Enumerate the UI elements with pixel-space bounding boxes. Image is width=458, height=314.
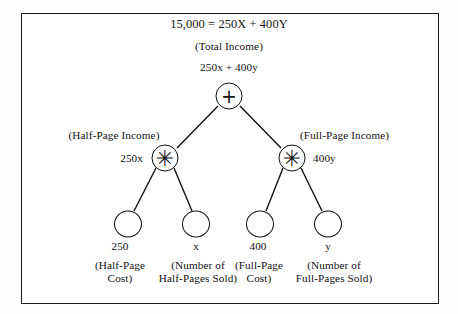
leaf-caption-half-page-cost: (Half-Page Cost) bbox=[95, 259, 145, 285]
multiply-operator-node-left[interactable]: ✳ bbox=[152, 145, 179, 172]
caption-line: Half-Pages Sold) bbox=[159, 272, 237, 285]
leaf-value-full-pages-sold: y bbox=[325, 240, 331, 253]
leaf-value-half-page-cost: 250 bbox=[111, 240, 128, 253]
asterisk-icon: ✳ bbox=[156, 148, 174, 170]
caption-line: (Full-Page bbox=[235, 259, 283, 272]
half-page-income-annotation: (Half-Page Income) bbox=[69, 129, 160, 142]
leaf-caption-full-pages-sold: (Number of Full-Pages Sold) bbox=[296, 259, 373, 285]
caption-line: Cost) bbox=[235, 272, 283, 285]
caption-line: Cost) bbox=[95, 272, 145, 285]
root-annotation: (Total Income) bbox=[195, 40, 263, 53]
caption-line: (Half-Page bbox=[95, 259, 145, 272]
caption-line: (Number of bbox=[159, 259, 237, 272]
leaf-caption-full-page-cost: (Full-Page Cost) bbox=[235, 259, 283, 285]
leaf-node-half-pages-sold[interactable] bbox=[182, 211, 210, 238]
leaf-caption-half-pages-sold: (Number of Half-Pages Sold) bbox=[159, 259, 237, 285]
leaf-value-full-page-cost: 400 bbox=[249, 240, 266, 253]
plus-operator-node[interactable]: + bbox=[216, 83, 243, 110]
plus-icon: + bbox=[221, 86, 237, 105]
half-page-income-expression: 250x bbox=[120, 152, 143, 165]
leaf-node-half-page-cost[interactable] bbox=[114, 211, 142, 238]
leaf-node-full-pages-sold[interactable] bbox=[314, 211, 342, 238]
root-expression: 250x + 400y bbox=[200, 61, 258, 74]
caption-line: (Number of bbox=[296, 259, 373, 272]
caption-line: Full-Pages Sold) bbox=[296, 272, 373, 285]
leaf-node-full-page-cost[interactable] bbox=[246, 211, 274, 238]
full-page-income-annotation: (Full-Page Income) bbox=[300, 129, 389, 142]
asterisk-icon: ✳ bbox=[283, 148, 301, 170]
leaf-value-half-pages-sold: x bbox=[193, 240, 199, 253]
full-page-income-expression: 400y bbox=[313, 152, 336, 165]
multiply-operator-node-right[interactable]: ✳ bbox=[279, 145, 306, 172]
title-equation: 15,000 = 250X + 400Y bbox=[170, 17, 288, 31]
diagram-canvas: 15,000 = 250X + 400Y (Total Income) 250x… bbox=[0, 0, 458, 314]
